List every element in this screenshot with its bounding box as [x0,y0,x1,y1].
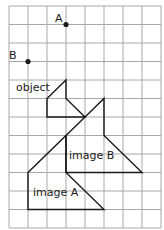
point-b-label: B [9,49,17,62]
object-label: object [16,81,51,94]
point-a-dot [63,22,68,27]
transformation-grid-diagram: A B object image B image A [0,0,164,230]
point-a-label: A [55,12,63,25]
point-b-dot [25,59,30,64]
image-b-label: image B [69,149,114,162]
image-a-label: image A [33,186,79,199]
